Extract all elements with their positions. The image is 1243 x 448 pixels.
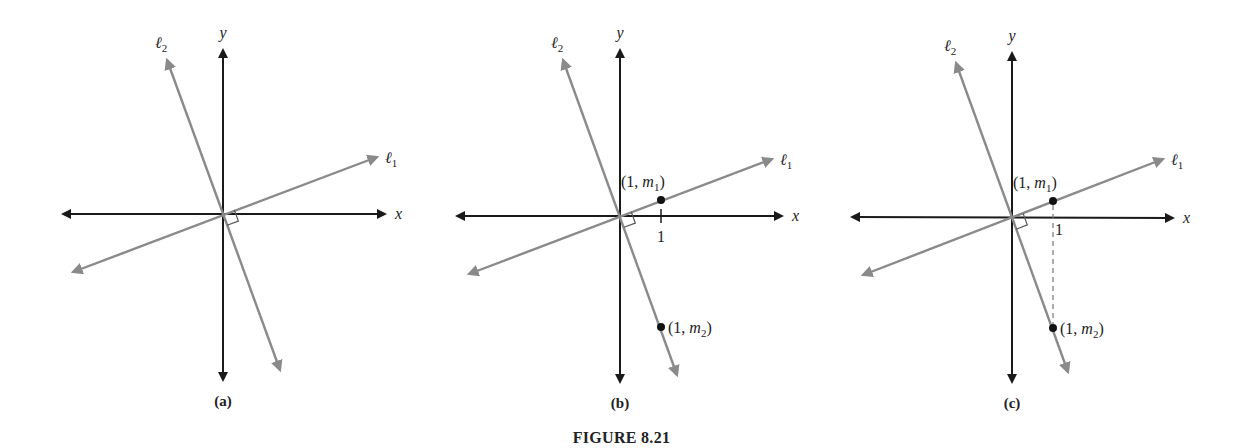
y-axis-label: y bbox=[614, 24, 624, 42]
y-axis-label: y bbox=[217, 24, 227, 42]
point-1-m1-label: (1, m1) bbox=[621, 173, 665, 193]
x-axis-label: x bbox=[791, 207, 799, 224]
panel-a: xyℓ1ℓ2(a) bbox=[63, 24, 402, 410]
point-1-m2 bbox=[1049, 324, 1057, 332]
tick-label-1: 1 bbox=[1055, 221, 1063, 238]
panel-label-c: (c) bbox=[1004, 395, 1021, 412]
line-l1-label: ℓ1 bbox=[385, 149, 397, 169]
tick-label-1: 1 bbox=[657, 228, 665, 245]
panel-c: xyℓ1ℓ21(1, m1)(1, m2)(c) bbox=[852, 27, 1190, 412]
panel-b: xyℓ1ℓ21(1, m1)(1, m2)(b) bbox=[457, 24, 799, 412]
point-1-m2-label: (1, m2) bbox=[1060, 320, 1104, 340]
point-1-m1 bbox=[657, 196, 665, 204]
y-axis-label: y bbox=[1006, 27, 1016, 45]
line-l1-label: ℓ1 bbox=[1171, 151, 1183, 171]
point-1-m1 bbox=[1049, 197, 1057, 205]
figure-caption: FIGURE 8.21 bbox=[0, 429, 1243, 447]
panels-group: xyℓ1ℓ2(a)xyℓ1ℓ21(1, m1)(1, m2)(b)xyℓ1ℓ21… bbox=[63, 24, 1190, 412]
point-1-m2-label: (1, m2) bbox=[668, 319, 712, 339]
line-l1-label: ℓ1 bbox=[780, 151, 792, 171]
line-l2-label: ℓ2 bbox=[155, 34, 167, 54]
panel-label-b: (b) bbox=[611, 395, 629, 412]
figure-8-21: xyℓ1ℓ2(a)xyℓ1ℓ21(1, m1)(1, m2)(b)xyℓ1ℓ21… bbox=[0, 0, 1243, 448]
panel-label-a: (a) bbox=[214, 393, 232, 410]
point-1-m2 bbox=[657, 323, 665, 331]
line-l2-label: ℓ2 bbox=[944, 37, 956, 57]
point-1-m1-label: (1, m1) bbox=[1013, 174, 1057, 194]
line-l2-label: ℓ2 bbox=[551, 34, 563, 54]
x-axis-label: x bbox=[394, 205, 402, 222]
x-axis-label: x bbox=[1182, 209, 1190, 226]
